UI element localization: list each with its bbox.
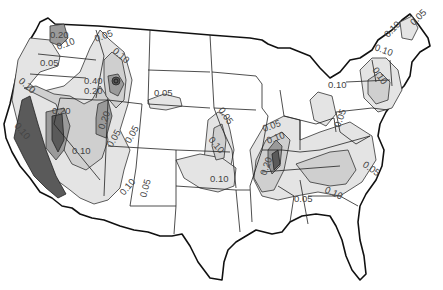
label-ca-020: 0.20 xyxy=(52,105,71,116)
label-tn-005: 0.05 xyxy=(294,193,313,204)
seismic-hazard-map: 0.20 0.10 0.05 0.05 0.10 0.40 0.20 0.10 … xyxy=(0,0,443,290)
label-nv-010: 0.10 xyxy=(72,145,91,156)
label-mi-010: 0.10 xyxy=(328,79,347,90)
label-ne-005: 0.05 xyxy=(154,87,173,98)
label-ok-010: 0.10 xyxy=(210,173,229,184)
zone-040-id xyxy=(112,77,120,85)
label-or-005: 0.05 xyxy=(40,57,59,68)
label-id-020: 0.20 xyxy=(84,85,103,96)
